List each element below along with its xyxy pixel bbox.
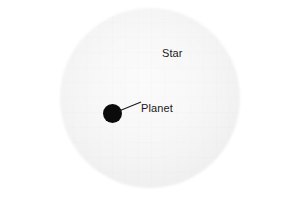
star-label: Star	[162, 47, 183, 59]
planet-label: Planet	[141, 102, 173, 114]
bottom-axis-strip: S	[0, 195, 281, 218]
transit-diagram-figure: Star Planet S	[0, 0, 281, 218]
star-panel: Star Planet	[0, 0, 281, 195]
star-disk	[60, 8, 240, 188]
